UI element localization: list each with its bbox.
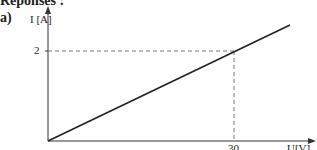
data-line [48,25,290,141]
x-axis-label: U[V] [287,142,310,150]
x-tick-label: 30 [228,142,239,150]
y-axis-label: I [A] [30,13,52,25]
y-tick-label: 2 [34,44,40,56]
